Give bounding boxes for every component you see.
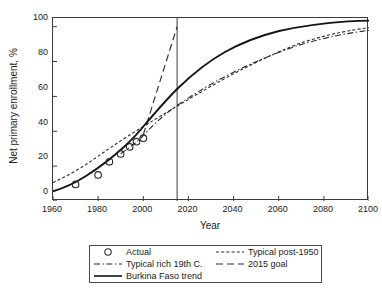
legend-label: Burkina Faso trend xyxy=(123,271,202,281)
series-burkina-faso-trend xyxy=(53,21,369,192)
x-tick-label: 1980 xyxy=(77,205,117,214)
y-tick-label: 0 xyxy=(43,187,48,196)
plot-area xyxy=(52,17,368,200)
series-typical-rich-19th-c xyxy=(121,30,369,153)
legend-empty-cell xyxy=(212,270,323,282)
data-point-marker xyxy=(126,144,133,151)
chart-figure: Net primary enrollment, % 100 80 60 40 2… xyxy=(0,0,382,304)
legend-entry-actual: Actual xyxy=(90,246,212,258)
x-tick-marks xyxy=(53,196,369,201)
open-circle-icon xyxy=(93,246,123,258)
y-tick-label: 100 xyxy=(33,13,48,22)
y-tick-marks xyxy=(53,27,57,201)
x-axis-tick-labels: 1960 1980 2000 2020 2040 2060 2080 2100 xyxy=(52,205,368,219)
x-tick-label: 1960 xyxy=(32,205,72,214)
x-axis-title: Year xyxy=(52,221,368,231)
y-tick-label: 40 xyxy=(38,118,48,127)
dashed-line-icon xyxy=(215,258,245,270)
y-tick-label: 80 xyxy=(38,48,48,57)
y-tick-label: 60 xyxy=(38,83,48,92)
data-point-marker xyxy=(133,138,140,145)
chart-legend: Actual Typical post-1950 Typical r xyxy=(89,245,322,283)
plot-canvas xyxy=(53,18,369,201)
legend-entry-typical-post-1950: Typical post-1950 xyxy=(212,246,323,258)
legend-label: Typical rich 19th C. xyxy=(123,259,203,269)
series-typical-post-1950 xyxy=(53,28,369,183)
x-tick-label: 2080 xyxy=(303,205,343,214)
y-axis-title: Net primary enrollment, % xyxy=(9,31,19,181)
data-point-marker xyxy=(117,151,124,158)
legend-entry-typical-rich-19th-c: Typical rich 19th C. xyxy=(90,258,212,270)
legend-entry-burkina-faso-trend: Burkina Faso trend xyxy=(90,270,212,282)
legend-label: 2015 goal xyxy=(245,259,288,269)
x-tick-label: 2020 xyxy=(167,205,207,214)
solid-line-icon xyxy=(93,270,123,282)
legend-grid: Actual Typical post-1950 Typical r xyxy=(90,246,321,282)
x-tick-label: 2000 xyxy=(122,205,162,214)
data-point-marker xyxy=(95,172,102,179)
dash-dot-line-icon xyxy=(93,258,123,270)
x-tick-label: 2100 xyxy=(348,205,382,214)
x-tick-label: 2060 xyxy=(258,205,298,214)
legend-label: Typical post-1950 xyxy=(245,247,319,257)
y-tick-label: 20 xyxy=(38,152,48,161)
legend-entry-2015-goal: 2015 goal xyxy=(212,258,323,270)
dotted-line-icon xyxy=(215,246,245,258)
y-axis-tick-labels: 100 80 60 40 20 0 xyxy=(22,0,48,304)
x-tick-label: 2040 xyxy=(213,205,253,214)
legend-label: Actual xyxy=(123,247,151,257)
